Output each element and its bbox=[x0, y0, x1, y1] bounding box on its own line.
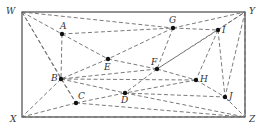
point-labels: WYXZAGIEFBHCDJ bbox=[6, 6, 256, 124]
edge-B-C bbox=[61, 79, 76, 103]
label-A: A bbox=[59, 21, 67, 31]
point-E bbox=[106, 57, 110, 61]
point-F bbox=[155, 67, 159, 71]
label-W: W bbox=[6, 6, 16, 16]
point-H bbox=[194, 78, 198, 82]
edge-B-D bbox=[61, 79, 125, 93]
label-F: F bbox=[150, 57, 158, 67]
label-J: J bbox=[227, 91, 234, 101]
label-E: E bbox=[103, 62, 111, 72]
point-B bbox=[59, 77, 63, 81]
point-C bbox=[74, 101, 78, 105]
label-G: G bbox=[169, 15, 176, 25]
edge-A-E bbox=[62, 34, 108, 59]
dashed-edges bbox=[22, 12, 245, 117]
edge-A-G bbox=[62, 28, 173, 34]
edge-C-Z bbox=[76, 103, 245, 117]
label-B: B bbox=[50, 73, 58, 83]
edge-G-I bbox=[173, 28, 218, 30]
edge-F-H bbox=[157, 69, 196, 80]
edge-F-D bbox=[125, 69, 157, 93]
edge-B-X bbox=[22, 79, 61, 117]
edge-H-D bbox=[125, 80, 196, 93]
label-Z: Z bbox=[248, 114, 256, 124]
edge-E-B bbox=[61, 59, 108, 79]
edge-C-X bbox=[22, 103, 76, 117]
point-G bbox=[171, 26, 175, 30]
point-A bbox=[60, 32, 64, 36]
label-C: C bbox=[78, 91, 85, 101]
edge-I-J bbox=[218, 30, 225, 97]
edge-W-G bbox=[22, 12, 173, 28]
point-I bbox=[216, 28, 220, 32]
label-H: H bbox=[199, 74, 208, 84]
edge-Y-J bbox=[225, 12, 245, 97]
edge-A-B bbox=[61, 34, 62, 79]
edge-W-C bbox=[22, 12, 76, 103]
label-D: D bbox=[120, 95, 128, 105]
edge-E-F bbox=[108, 59, 157, 69]
label-X: X bbox=[9, 114, 17, 124]
geometry-diagram: WYXZAGIEFBHCDJ bbox=[0, 0, 268, 131]
edge-B-H bbox=[61, 79, 196, 80]
edge-G-Y bbox=[173, 12, 245, 28]
edge-W-B bbox=[22, 12, 61, 79]
label-I: I bbox=[221, 25, 226, 35]
point-J bbox=[223, 95, 227, 99]
label-Y: Y bbox=[249, 6, 256, 16]
edge-G-E bbox=[108, 28, 173, 59]
